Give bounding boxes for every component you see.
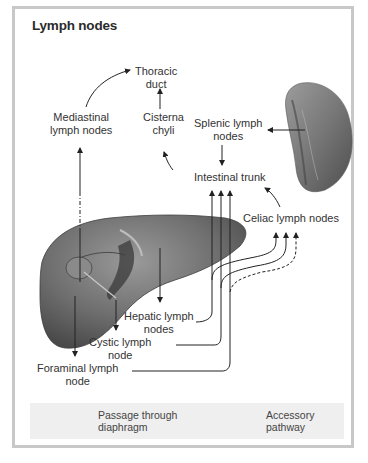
- label-foraminal-lymph-node: Foraminal lymphnode: [37, 362, 118, 388]
- label-celiac-lymph-nodes: Celiac lymph nodes: [243, 212, 339, 225]
- label-thoracic-duct: Thoracicduct: [135, 65, 177, 91]
- label-mediastinal-lymph-nodes: Mediastinallymph nodes: [50, 111, 112, 137]
- label-intestinal-trunk: Intestinal trunk: [194, 171, 266, 184]
- legend-passage-through-diaphragm: Passage throughdiaphragm: [98, 409, 177, 433]
- spleen-illustration: [286, 83, 353, 192]
- label-hepatic-lymph-nodes: Hepatic lymphnodes: [124, 310, 194, 336]
- label-splenic-lymph-nodes: Splenic lymphnodes: [194, 117, 262, 143]
- label-cystic-lymph-node: Cystic lymphnode: [89, 336, 151, 362]
- label-cisterna-chyli: Cisternachyli: [143, 111, 184, 137]
- legend-accessory-pathway: Accessorypathway: [266, 409, 314, 433]
- lymph-diagram: [0, 0, 368, 463]
